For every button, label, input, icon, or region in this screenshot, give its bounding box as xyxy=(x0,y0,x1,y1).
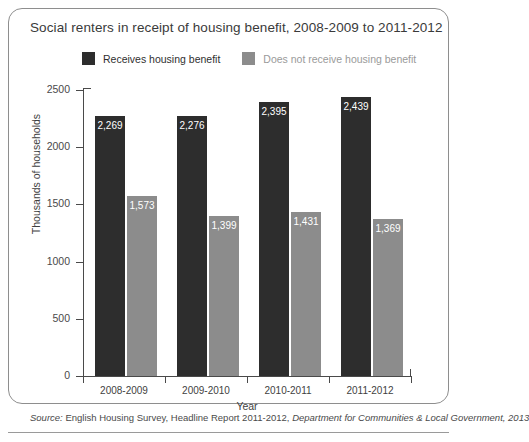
source-main: English Housing Survey, Headline Report … xyxy=(63,412,292,423)
source-prefix: Source: xyxy=(30,412,63,423)
bar[interactable]: 2,269 xyxy=(95,116,125,376)
bar-groups: 2,2691,5732,2761,3992,3951,4312,4391,369 xyxy=(83,90,411,376)
x-tick-label: 2008-2009 xyxy=(79,385,169,396)
bar-group: 2,3951,431 xyxy=(247,90,329,376)
bar[interactable]: 1,431 xyxy=(291,212,321,376)
bar-value-label: 1,369 xyxy=(373,223,403,234)
chart-legend: Receives housing benefit Does not receiv… xyxy=(82,52,416,65)
bar-group: 2,2761,399 xyxy=(165,90,247,376)
bar[interactable]: 2,276 xyxy=(177,116,207,376)
bar[interactable]: 2,439 xyxy=(341,97,371,376)
x-tick-label: 2009-2010 xyxy=(161,385,251,396)
x-tick-label: 2011-2012 xyxy=(325,385,415,396)
x-tick-mark xyxy=(247,376,248,383)
y-tick-label: 500 xyxy=(34,312,70,324)
x-tick-mark xyxy=(165,376,166,383)
x-tick-mark xyxy=(83,376,84,383)
bar-value-label: 2,276 xyxy=(177,120,207,131)
bar[interactable]: 1,399 xyxy=(209,216,239,376)
y-axis-title: Thousands of households xyxy=(30,79,42,269)
source-emphasis: Department for Communities & Local Gover… xyxy=(292,412,529,423)
legend-label-does-not-receive: Does not receive housing benefit xyxy=(263,53,416,65)
y-axis-top-cap xyxy=(83,88,91,89)
bar-value-label: 2,439 xyxy=(341,101,371,112)
bar-value-label: 1,399 xyxy=(209,220,239,231)
x-tick-mark xyxy=(329,376,330,383)
chart-title: Social renters in receipt of housing ben… xyxy=(30,20,443,35)
bar-value-label: 1,431 xyxy=(291,216,321,227)
legend-label-receives: Receives housing benefit xyxy=(103,53,220,65)
x-tick-label: 2010-2011 xyxy=(243,385,333,396)
legend-swatch-light xyxy=(242,52,255,65)
bar-group: 2,2691,573 xyxy=(83,90,165,376)
x-axis-title: Year xyxy=(83,400,411,412)
bar[interactable]: 1,573 xyxy=(127,196,157,376)
x-tick-mark xyxy=(411,376,412,383)
y-tick-label: 0 xyxy=(34,369,70,381)
bottom-divider xyxy=(8,432,449,433)
bar[interactable]: 1,369 xyxy=(373,219,403,376)
bar-value-label: 2,395 xyxy=(259,106,289,117)
source-note: Source: English Housing Survey, Headline… xyxy=(30,412,529,423)
bar-value-label: 1,573 xyxy=(127,200,157,211)
legend-item-receives[interactable]: Receives housing benefit xyxy=(82,52,220,65)
bar-group: 2,4391,369 xyxy=(329,90,411,376)
legend-item-does-not-receive[interactable]: Does not receive housing benefit xyxy=(242,52,416,65)
legend-swatch-dark xyxy=(82,52,95,65)
bar[interactable]: 2,395 xyxy=(259,102,289,376)
bar-value-label: 2,269 xyxy=(95,120,125,131)
